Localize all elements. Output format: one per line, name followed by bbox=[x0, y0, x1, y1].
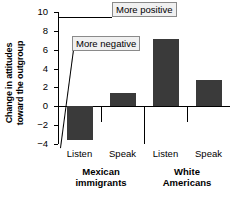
y-axis-tick: 6 bbox=[54, 50, 58, 51]
category-separator-tick bbox=[101, 106, 102, 122]
y-axis-tick-label: 6 bbox=[43, 45, 48, 55]
bar bbox=[153, 39, 179, 106]
y-axis-tick: 4 bbox=[54, 69, 58, 70]
y-axis-tick-label: 0 bbox=[43, 101, 48, 111]
y-axis-tick: −4 bbox=[54, 144, 58, 145]
y-axis-tick-label: 8 bbox=[43, 26, 48, 36]
group-label-line1: White bbox=[147, 166, 227, 177]
bar bbox=[110, 93, 136, 106]
group-label-line1: Mexican bbox=[61, 166, 141, 177]
y-axis-tick-label: −2 bbox=[37, 120, 48, 130]
category-separator-tick bbox=[187, 106, 188, 122]
y-axis-tick: 10 bbox=[54, 12, 58, 13]
y-axis-tick-label: 4 bbox=[43, 64, 48, 74]
y-axis-tick: −2 bbox=[54, 125, 58, 126]
category-separator-tick bbox=[144, 106, 145, 144]
y-axis-title-line2: toward the outgroup bbox=[15, 40, 26, 125]
y-axis-tick: 2 bbox=[54, 87, 58, 88]
annotation-more-negative: More negative bbox=[72, 36, 140, 51]
y-axis-tick-label: 10 bbox=[37, 7, 48, 17]
group-label-line2: Americans bbox=[147, 177, 227, 188]
y-axis-title: Change in attitudes toward the outgroup bbox=[0, 10, 30, 155]
y-axis-tick-label: 2 bbox=[43, 82, 48, 92]
chart-figure: Change in attitudes toward the outgroup … bbox=[0, 0, 246, 202]
y-axis-tick-label: −4 bbox=[37, 139, 48, 149]
group-label-line2: immigrants bbox=[61, 177, 141, 188]
group-label-mexican-immigrants: Mexican immigrants bbox=[61, 166, 141, 188]
bar bbox=[196, 80, 222, 106]
plot-area: 1086420−2−4 bbox=[58, 12, 230, 144]
y-axis-line bbox=[58, 12, 59, 144]
bar bbox=[67, 106, 93, 140]
annotation-more-positive: More positive bbox=[112, 2, 177, 17]
group-label-white-americans: White Americans bbox=[147, 166, 227, 188]
more-positive-leader-line bbox=[59, 17, 112, 18]
category-label: Speak bbox=[179, 148, 239, 159]
y-axis-title-line1: Change in attitudes bbox=[4, 40, 15, 125]
y-axis-tick: 8 bbox=[54, 31, 58, 32]
